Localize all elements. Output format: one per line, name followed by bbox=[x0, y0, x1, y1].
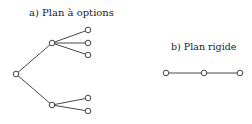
option-plan-edge bbox=[16, 74, 52, 105]
rigid-plan-node bbox=[237, 70, 243, 76]
rigid-plan-node bbox=[163, 70, 169, 76]
option-plan-node bbox=[49, 102, 55, 108]
option-plan-edge bbox=[52, 30, 88, 43]
option-plan-node bbox=[85, 27, 91, 33]
option-plan-node bbox=[85, 108, 91, 114]
option-plan-edge bbox=[52, 105, 88, 111]
option-plan-edge bbox=[52, 98, 88, 105]
option-plan-node bbox=[49, 40, 55, 46]
option-plan-edge bbox=[16, 43, 52, 74]
plan-diagram bbox=[0, 0, 252, 124]
option-plan-node bbox=[85, 52, 91, 58]
rigid-plan-node bbox=[201, 70, 207, 76]
option-plan-node bbox=[85, 40, 91, 46]
option-plan-node bbox=[85, 95, 91, 101]
option-plan-node bbox=[13, 71, 19, 77]
option-plan-edge bbox=[52, 43, 88, 55]
